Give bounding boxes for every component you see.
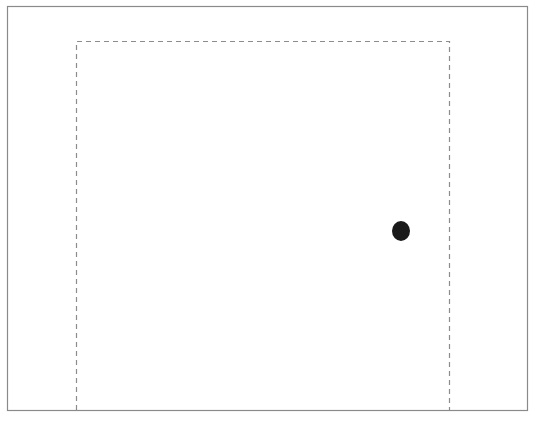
door-diagram [0, 0, 538, 421]
door-knob-icon [392, 221, 410, 241]
door-diagram-canvas [0, 0, 538, 421]
background [0, 0, 538, 421]
